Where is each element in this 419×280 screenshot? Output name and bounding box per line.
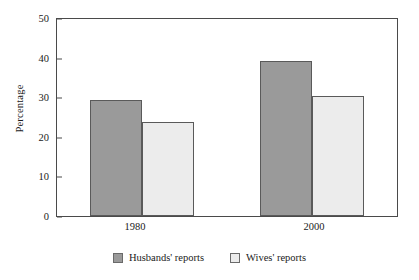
y-tick-mark: [57, 137, 62, 138]
x-tick-label-2000: 2000: [254, 221, 374, 232]
y-tick-mark: [57, 58, 62, 59]
y-tick-label: 20: [9, 129, 49, 145]
y-tick-mark: [57, 98, 62, 99]
bar-2000-wives: [312, 96, 364, 216]
bar-1980-wives: [142, 122, 194, 216]
legend-swatch-icon: [230, 253, 240, 263]
x-tick-label-1980: 1980: [75, 221, 195, 232]
bar-1980-husbands: [90, 100, 142, 216]
y-tick-mark: [57, 19, 62, 20]
y-tick-label: 30: [9, 90, 49, 106]
plot-area: 50 40 30 20 10 0: [56, 18, 398, 217]
legend-label: Wives' reports: [246, 252, 306, 263]
legend-item-wives: Wives' reports: [230, 252, 306, 263]
y-tick-mark: [57, 177, 62, 178]
y-tick-label: 50: [9, 11, 49, 27]
y-tick-mark: [57, 217, 62, 218]
bar-chart-figure: Percentage 50 40 30 20 10 0: [0, 0, 419, 280]
chart-legend: Husbands' reports Wives' reports: [0, 252, 419, 263]
legend-item-husbands: Husbands' reports: [113, 252, 204, 263]
bar-2000-husbands: [260, 61, 312, 216]
y-tick-label: 10: [9, 169, 49, 185]
y-tick-label: 0: [9, 209, 49, 225]
legend-swatch-icon: [113, 253, 123, 263]
legend-label: Husbands' reports: [129, 252, 204, 263]
y-tick-label: 40: [9, 50, 49, 66]
